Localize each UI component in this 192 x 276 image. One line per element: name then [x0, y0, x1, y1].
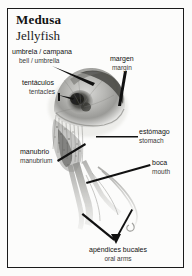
label-stomach-es: estómago — [139, 128, 170, 137]
label-mouth: boca mouth — [152, 159, 170, 176]
label-manubrium-es: manubrio — [20, 148, 53, 157]
label-margin-en: margin — [110, 64, 134, 73]
figure-title: Medusa Jellyfish — [16, 13, 61, 43]
label-stomach: estómago stomach — [139, 128, 170, 145]
label-oral-arms-es: apéndices bucales — [77, 246, 159, 255]
label-stomach-en: stomach — [139, 137, 170, 146]
label-tentacles-es: tentáculos — [22, 79, 55, 88]
label-margin-es: margen — [110, 55, 134, 64]
jellyfish-anatomy-figure: umbrela / campana bell / umbrella tentác… — [0, 0, 192, 276]
jellyfish-photograph — [40, 55, 148, 235]
label-manubrium-en: manubrium — [20, 157, 53, 166]
label-bell-umbrella-es: umbrela / campana — [12, 48, 72, 57]
title-spanish: Medusa — [16, 13, 61, 27]
label-oral-arms: apéndices bucales oral arms — [77, 246, 159, 263]
label-tentacles-en: tentacles — [22, 88, 55, 97]
label-margin: margen margin — [110, 55, 134, 72]
label-manubrium: manubrio manubrium — [20, 148, 53, 165]
label-bell-umbrella: umbrela / campana bell / umbrella — [12, 48, 72, 65]
label-mouth-es: boca — [152, 159, 170, 168]
label-mouth-en: mouth — [152, 168, 170, 177]
title-english: Jellyfish — [16, 28, 61, 43]
label-tentacles: tentáculos tentacles — [22, 79, 55, 96]
label-oral-arms-en: oral arms — [77, 255, 159, 264]
label-bell-umbrella-en: bell / umbrella — [12, 57, 72, 66]
